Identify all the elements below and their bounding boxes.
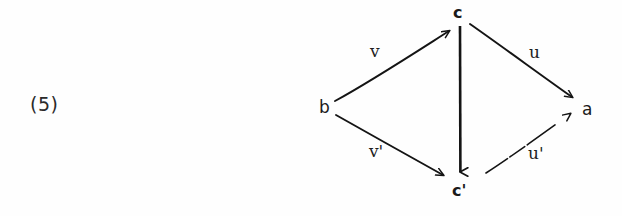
commutative-diagram bbox=[0, 0, 622, 216]
edge-label-u: u bbox=[529, 44, 540, 61]
node-a: a bbox=[582, 101, 592, 118]
edge-label-v: v bbox=[370, 43, 380, 60]
scanned-page: (5) c b a c' v u v' u' bbox=[0, 0, 622, 216]
node-c-top: c bbox=[453, 5, 462, 21]
edge-b-to-cprime bbox=[336, 115, 443, 175]
node-c-prime: c' bbox=[452, 183, 466, 199]
node-b: b bbox=[319, 99, 330, 116]
edge-b-to-c bbox=[335, 31, 449, 101]
edge-c-to-a bbox=[470, 24, 572, 97]
edge-label-u-prime: u' bbox=[528, 145, 544, 162]
edge-label-v-prime: v' bbox=[369, 143, 383, 160]
